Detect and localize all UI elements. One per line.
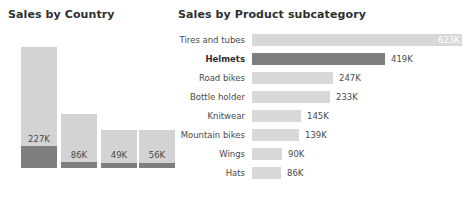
- chart-title-sales-by-product-subcategory: Sales by Product subcategory: [178, 8, 366, 21]
- column-bar-great-britain[interactable]: 86K: [61, 114, 97, 168]
- bar-row-bottle-holder[interactable]: Bottle holder 233K: [175, 91, 471, 103]
- chart-panel-sales-by-country: Sales by Country 227K 86K 49K: [0, 0, 175, 202]
- column-bar-france[interactable]: 56K: [139, 130, 175, 168]
- bar-value-road-bikes: 247K: [339, 72, 361, 84]
- column-value-germany: 49K: [101, 150, 137, 160]
- bar-category-road-bikes: Road bikes: [175, 72, 245, 84]
- column-segment-dark-great-britain: [61, 162, 97, 168]
- bar-fill-wings[interactable]: [252, 148, 282, 160]
- bar-value-helmets: 419K: [391, 53, 413, 65]
- bar-row-mountain-bikes[interactable]: Mountain bikes 139K: [175, 129, 471, 141]
- column-value-france: 56K: [139, 150, 175, 160]
- bar-track-bottle-holder: 233K: [252, 91, 471, 103]
- column-bar-germany[interactable]: 49K: [101, 130, 137, 168]
- bar-row-hats[interactable]: Hats 86K: [175, 167, 471, 179]
- bar-fill-helmets[interactable]: [252, 53, 385, 65]
- bar-category-wings: Wings: [175, 148, 245, 160]
- bar-fill-hats[interactable]: [252, 167, 281, 179]
- bar-row-helmets[interactable]: Helmets 419K: [175, 53, 471, 65]
- column-value-usa: 227K: [21, 134, 57, 144]
- bar-row-road-bikes[interactable]: Road bikes 247K: [175, 72, 471, 84]
- column-segment-dark-germany: [101, 163, 137, 168]
- bar-category-bottle-holder: Bottle holder: [175, 91, 245, 103]
- column-segment-dark-usa: [21, 146, 57, 168]
- bar-track-hats: 86K: [252, 167, 471, 179]
- bar-track-wings: 90K: [252, 148, 471, 160]
- bar-track-helmets: 419K: [252, 53, 471, 65]
- bar-value-mountain-bikes: 139K: [305, 129, 327, 141]
- bar-fill-bottle-holder[interactable]: [252, 91, 330, 103]
- bar-track-knitwear: 145K: [252, 110, 471, 122]
- bar-category-hats: Hats: [175, 167, 245, 179]
- bar-row-wings[interactable]: Wings 90K: [175, 148, 471, 160]
- chart-title-sales-by-country: Sales by Country: [8, 8, 115, 21]
- bar-fill-road-bikes[interactable]: [252, 72, 333, 84]
- bar-track-road-bikes: 247K: [252, 72, 471, 84]
- bar-category-mountain-bikes: Mountain bikes: [175, 129, 245, 141]
- bar-value-knitwear: 145K: [307, 110, 329, 122]
- bar-fill-tires-and-tubes[interactable]: [252, 34, 462, 46]
- column-value-great-britain: 86K: [61, 150, 97, 160]
- column-chart-plot-area: 227K 86K 49K 56K: [8, 38, 173, 168]
- chart-panel-sales-by-product-subcategory: Sales by Product subcategory Tires and t…: [175, 0, 471, 202]
- bar-track-tires-and-tubes: 623K: [252, 34, 471, 46]
- bar-chart-plot-area: Tires and tubes 623K Helmets 419K Road b…: [175, 32, 471, 192]
- bar-category-knitwear: Knitwear: [175, 110, 245, 122]
- column-segment-dark-france: [139, 163, 175, 168]
- bar-category-helmets: Helmets: [175, 53, 245, 65]
- bar-value-tires-and-tubes: 623K: [438, 34, 460, 46]
- bar-row-tires-and-tubes[interactable]: Tires and tubes 623K: [175, 34, 471, 46]
- bar-track-mountain-bikes: 139K: [252, 129, 471, 141]
- bar-value-bottle-holder: 233K: [336, 91, 358, 103]
- dashboard: Sales by Country 227K 86K 49K: [0, 0, 471, 202]
- bar-fill-knitwear[interactable]: [252, 110, 301, 122]
- bar-value-wings: 90K: [288, 148, 304, 160]
- bar-value-hats: 86K: [287, 167, 303, 179]
- bar-fill-mountain-bikes[interactable]: [252, 129, 299, 141]
- column-bar-usa[interactable]: 227K: [21, 47, 57, 168]
- bar-row-knitwear[interactable]: Knitwear 145K: [175, 110, 471, 122]
- bar-category-tires-and-tubes: Tires and tubes: [175, 34, 245, 46]
